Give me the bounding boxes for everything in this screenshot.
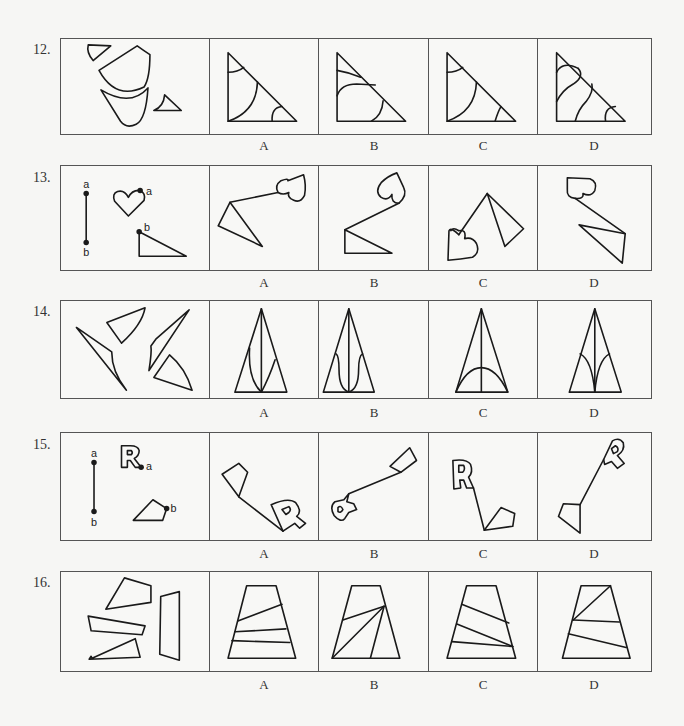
question-number-16: 16. [33,575,51,591]
option-label-14-c: C [473,405,493,421]
q15-option-c-figure [429,433,538,540]
question-12-option-c[interactable] [429,39,539,134]
question-13-option-c[interactable] [429,166,539,270]
question-13-stem: a b a b [61,166,210,270]
question-16-stem [61,572,210,671]
option-label-16-a: A [254,677,274,693]
question-16-option-b[interactable] [319,572,429,671]
option-label-15-b: B [364,546,384,562]
q13-option-d-figure [538,166,651,270]
question-14-option-a[interactable] [210,301,320,398]
q15-option-a-figure [210,433,319,540]
q13-option-a-figure [210,166,319,270]
q15-option-d-figure [538,433,651,540]
question-13-row: a b a b [60,165,652,271]
option-label-12-c: C [473,138,493,154]
question-13-option-a[interactable] [210,166,320,270]
q15-stem-figure: a b a b [61,433,209,540]
q16-option-c-figure [429,572,538,671]
option-label-12-b: B [364,138,384,154]
q16-option-b-figure [319,572,428,671]
question-number-12: 12. [33,42,51,58]
question-12-option-d[interactable] [538,39,651,134]
question-number-15: 15. [33,437,51,453]
question-14-option-d[interactable] [538,301,651,398]
question-14-row [60,300,652,399]
option-label-15-d: D [584,546,604,562]
question-16-option-a[interactable] [210,572,320,671]
option-label-15-a: A [254,546,274,562]
q12-option-b-figure [319,39,428,134]
q12-option-d-figure [538,39,651,134]
svg-text:b: b [83,246,89,258]
q12-stem-figure [61,39,209,134]
q14-option-b-figure [319,301,428,398]
svg-text:b: b [144,221,150,233]
svg-text:a: a [83,178,89,190]
question-16-option-d[interactable] [538,572,651,671]
q13-option-b-figure [319,166,428,270]
q12-option-a-figure [210,39,319,134]
question-15-option-c[interactable] [429,433,539,540]
svg-text:a: a [91,447,97,459]
question-12-row [60,38,652,135]
question-number-13: 13. [33,170,51,186]
option-label-14-d: D [584,405,604,421]
q16-option-d-figure [538,572,651,671]
q14-option-a-figure [210,301,319,398]
svg-text:a: a [146,185,152,197]
question-13-option-b[interactable] [319,166,429,270]
option-label-14-b: B [364,405,384,421]
question-13-option-d[interactable] [538,166,651,270]
option-label-13-d: D [584,275,604,291]
option-label-13-c: C [473,275,493,291]
option-label-16-d: D [584,677,604,693]
question-16-option-c[interactable] [429,572,539,671]
question-15-stem: a b a b [61,433,210,540]
svg-text:b: b [171,502,177,514]
svg-text:b: b [91,516,97,528]
question-number-14: 14. [33,304,51,320]
q12-option-c-figure [429,39,538,134]
q14-option-c-figure [429,301,538,398]
option-label-14-a: A [254,405,274,421]
q16-option-a-figure [210,572,319,671]
question-14-stem [61,301,210,398]
q14-option-d-figure [538,301,651,398]
option-label-16-c: C [473,677,493,693]
svg-text:a: a [146,460,152,472]
option-label-13-a: A [254,275,274,291]
q15-option-b-figure [319,433,428,540]
q14-stem-figure [61,301,209,398]
option-label-13-b: B [364,275,384,291]
question-15-option-b[interactable] [319,433,429,540]
question-16-row [60,571,652,672]
q16-stem-figure [61,572,209,671]
option-label-15-c: C [473,546,493,562]
question-15-row: a b a b [60,432,652,541]
option-label-12-d: D [584,138,604,154]
q13-option-c-figure [429,166,538,270]
question-12-option-a[interactable] [210,39,320,134]
option-label-16-b: B [364,677,384,693]
question-15-option-a[interactable] [210,433,320,540]
question-12-option-b[interactable] [319,39,429,134]
option-label-12-a: A [254,138,274,154]
question-15-option-d[interactable] [538,433,651,540]
question-14-option-b[interactable] [319,301,429,398]
question-12-stem [61,39,210,134]
question-14-option-c[interactable] [429,301,539,398]
q13-stem-figure: a b a b [61,166,209,270]
